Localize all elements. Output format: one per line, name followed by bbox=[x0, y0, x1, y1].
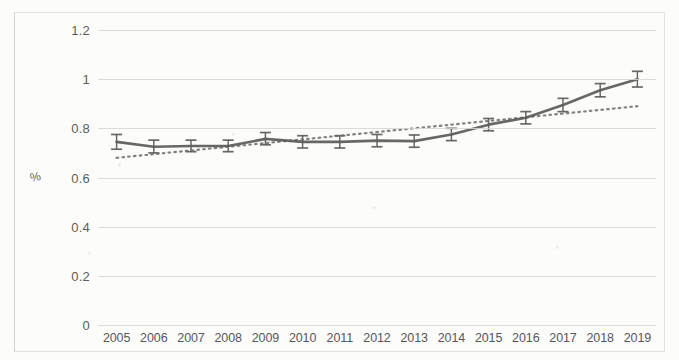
chart-border-left-edge bbox=[14, 12, 15, 352]
x-axis-tick-label: 2007 bbox=[177, 331, 204, 345]
gridline bbox=[98, 79, 656, 80]
x-axis-tick-label: 2009 bbox=[252, 331, 279, 345]
x-axis-tick-label: 2016 bbox=[512, 331, 539, 345]
y-axis-tick-label: 1.2 bbox=[71, 23, 90, 38]
gridline bbox=[98, 128, 656, 129]
x-axis-tick-label: 2017 bbox=[549, 331, 576, 345]
x-axis-tick-label: 2018 bbox=[586, 331, 613, 345]
chart-page: % 00.20.40.60.811.2 20052006200720082009… bbox=[0, 0, 679, 360]
x-axis-tick-label: 2013 bbox=[400, 331, 427, 345]
y-axis-tick-label: 1 bbox=[83, 72, 90, 87]
gridline bbox=[98, 30, 656, 31]
gridline bbox=[98, 276, 656, 277]
y-axis-tick-label: 0 bbox=[83, 318, 90, 333]
trendline-path bbox=[117, 106, 638, 158]
x-axis-tick-label: 2015 bbox=[475, 331, 502, 345]
x-axis-tick-label: 2019 bbox=[624, 331, 651, 345]
x-axis-tick-label: 2014 bbox=[438, 331, 465, 345]
x-axis-tick-label: 2012 bbox=[363, 331, 390, 345]
gridline bbox=[98, 227, 656, 228]
x-axis-tick-label: 2005 bbox=[103, 331, 130, 345]
x-axis-tick-label: 2011 bbox=[327, 331, 353, 345]
x-axis-tick-label: 2008 bbox=[214, 331, 241, 345]
gridline bbox=[98, 178, 656, 179]
x-axis-tick-label: 2006 bbox=[140, 331, 167, 345]
y-axis-tick-label: 0.6 bbox=[71, 170, 90, 185]
plot-area bbox=[98, 30, 656, 325]
gridline bbox=[98, 325, 656, 326]
x-axis-tick-labels: 2005200620072008200920102011201220132014… bbox=[98, 331, 656, 355]
x-axis-tick-label: 2010 bbox=[289, 331, 316, 345]
y-axis-tick-labels: 00.20.40.60.811.2 bbox=[44, 30, 90, 325]
y-axis-tick-label: 0.2 bbox=[71, 268, 90, 283]
y-axis-tick-label: 0.4 bbox=[71, 219, 90, 234]
y-axis-tick-label: 0.8 bbox=[71, 121, 90, 136]
